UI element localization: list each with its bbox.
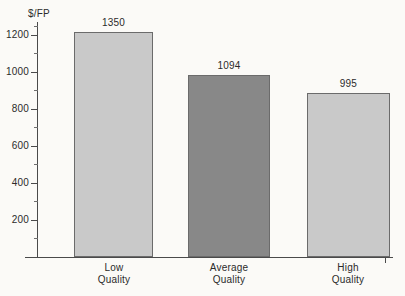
y-tick-label-600: 600 <box>1 141 29 151</box>
y-axis-title: $/FP <box>28 8 50 19</box>
y-tick-label-400-wrap: 400 <box>0 178 29 188</box>
y-tick-minor-100 <box>34 238 38 239</box>
x-axis-label-average-quality-line2: Quality <box>179 274 279 286</box>
x-axis-label-low-quality: Low Quality <box>64 262 164 286</box>
y-tick-label-800: 800 <box>1 104 29 114</box>
y-tick-label-600-wrap: 600 <box>0 141 29 151</box>
y-tick-label-400: 400 <box>1 178 29 188</box>
y-tick-label-1200-wrap: 1200 <box>0 30 29 40</box>
y-tick-minor-1100 <box>34 53 38 54</box>
x-axis-line <box>25 257 393 258</box>
y-tick-label-1000: 1000 <box>1 67 29 77</box>
y-tick-minor-700 <box>34 127 38 128</box>
y-tick-label-1200: 1200 <box>1 30 29 40</box>
x-axis-label-high-quality: High Quality <box>298 262 398 286</box>
y-tick-major-600 <box>31 146 38 147</box>
plot-area: $/FP 1200 1000 800 600 <box>0 0 405 296</box>
bar-value-low-quality: 1350 <box>74 17 153 28</box>
y-tick-major-800 <box>31 109 38 110</box>
y-tick-minor-300 <box>34 201 38 202</box>
bar-chart: $/FP 1200 1000 800 600 <box>0 0 405 296</box>
y-tick-label-200: 200 <box>1 215 29 225</box>
x-axis-label-low-quality-line1: Low <box>64 262 164 274</box>
bar-value-average-quality: 1094 <box>188 60 270 71</box>
bar-low-quality[interactable] <box>74 32 153 257</box>
x-axis-label-low-quality-line2: Quality <box>64 274 164 286</box>
x-axis-origin-stub <box>25 257 37 258</box>
y-tick-label-800-wrap: 800 <box>0 104 29 114</box>
x-axis-label-average-quality-line1: Average <box>179 262 279 274</box>
y-tick-minor-1300 <box>34 26 38 27</box>
y-tick-major-200 <box>31 220 38 221</box>
y-tick-major-400 <box>31 183 38 184</box>
x-axis-label-average-quality: Average Quality <box>179 262 279 286</box>
y-tick-minor-500 <box>34 164 38 165</box>
bar-high-quality[interactable] <box>307 93 390 257</box>
bar-value-high-quality: 995 <box>307 78 390 89</box>
x-axis-label-high-quality-line1: High <box>298 262 398 274</box>
y-axis-line <box>37 22 38 257</box>
y-tick-label-1000-wrap: 1000 <box>0 67 29 77</box>
y-tick-major-1000 <box>31 72 38 73</box>
y-tick-major-1200 <box>31 35 38 36</box>
x-axis-label-high-quality-line2: Quality <box>298 274 398 286</box>
bar-average-quality[interactable] <box>188 75 270 257</box>
y-tick-minor-900 <box>34 90 38 91</box>
y-tick-label-200-wrap: 200 <box>0 215 29 225</box>
